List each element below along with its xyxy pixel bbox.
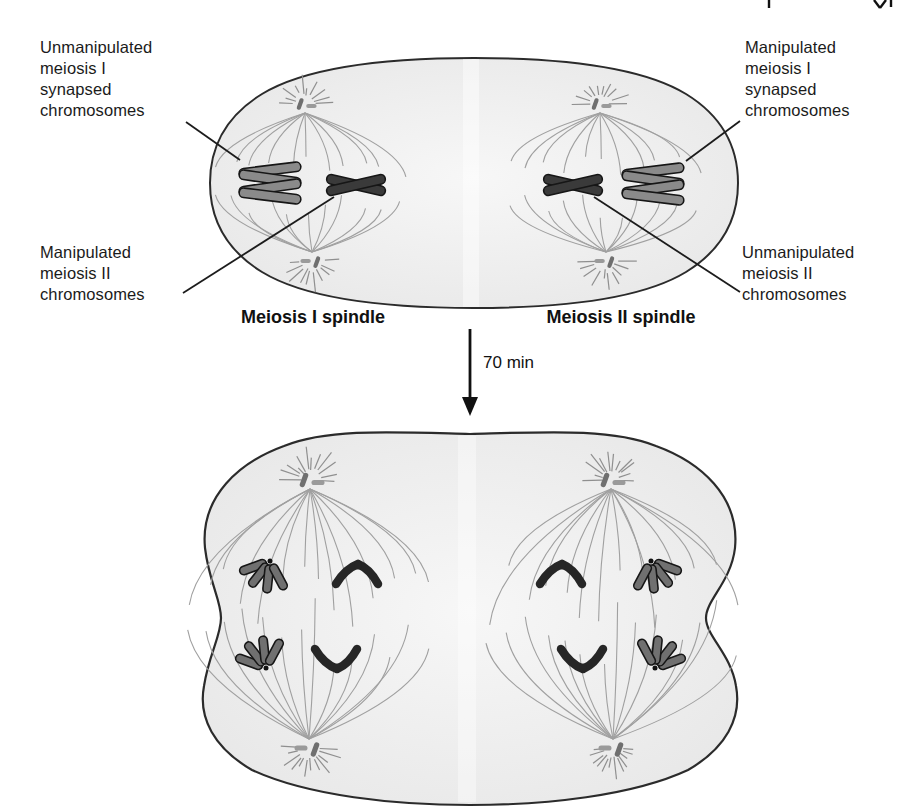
meiosis-spindle-figure: Unmanipulated meiosis I synapsed chromos…	[0, 0, 921, 811]
aster-ray	[311, 458, 312, 470]
top-cell	[210, 58, 738, 308]
kinetochore-dot	[558, 562, 566, 570]
arrow-duration-label: 70 min	[483, 353, 534, 373]
caption-meiosis1-spindle: Meiosis I spindle	[241, 307, 385, 328]
cropped-glyph-descender	[880, 0, 886, 8]
label-manipulated-meiosis1: Manipulated meiosis I synapsed chromosom…	[745, 37, 850, 121]
transition-arrow	[462, 329, 478, 416]
centriole	[594, 259, 604, 263]
aster-ray	[279, 103, 293, 104]
label-unmanipulated-meiosis2: Unmanipulated meiosis II chromosomes	[742, 242, 854, 305]
centriole	[300, 259, 310, 263]
kinetochore-dot	[268, 559, 273, 564]
kinetochore-dot	[653, 666, 658, 671]
centriole	[306, 104, 316, 108]
kinetochore-dot	[354, 562, 362, 570]
diagram-svg	[0, 0, 921, 811]
centriole	[601, 104, 611, 108]
kinetochore-dot	[264, 666, 269, 671]
arrow-head	[462, 397, 478, 416]
aster-ray	[577, 261, 595, 262]
caption-meiosis2-spindle: Meiosis II spindle	[546, 307, 695, 328]
aster-ray	[306, 88, 307, 95]
bottom-cell	[188, 432, 738, 805]
centriole	[613, 480, 626, 485]
label-manipulated-meiosis2: Manipulated meiosis II chromosomes	[40, 242, 145, 305]
kinetochore-dot	[579, 664, 587, 672]
aster-ray	[623, 749, 633, 750]
scan-seam	[458, 436, 476, 802]
aster-ray	[290, 262, 299, 263]
centriole	[295, 745, 308, 750]
centriole	[312, 480, 325, 485]
kinetochore-dot	[649, 559, 654, 564]
scan-seam	[463, 59, 479, 307]
label-unmanipulated-meiosis1: Unmanipulated meiosis I synapsed chromos…	[40, 37, 152, 121]
kinetochore-dot	[333, 664, 341, 672]
centriole	[599, 745, 612, 750]
aster-ray	[320, 749, 338, 750]
cropped-glyph-descender	[874, 0, 880, 8]
cropped-text-remnant	[769, 0, 891, 8]
